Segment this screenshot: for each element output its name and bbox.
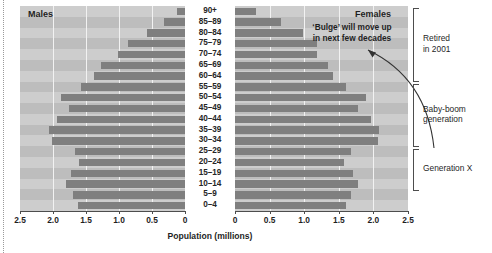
age-group-label: 50–54 (186, 92, 234, 103)
bar (69, 105, 185, 112)
bulge-annotation-line2: in next few decades (296, 33, 408, 44)
bar (61, 94, 185, 101)
bar (177, 8, 185, 15)
age-group-label: 75–79 (186, 38, 234, 49)
bar (235, 126, 379, 133)
axis-tick (20, 211, 21, 214)
bar (235, 29, 303, 36)
x-tick-label-right: 1.5 (324, 215, 354, 225)
age-group-label: 45–49 (186, 103, 234, 114)
gridline (53, 6, 54, 211)
age-group-label: 80–84 (186, 28, 234, 39)
bar (52, 137, 185, 144)
bar (81, 83, 185, 90)
axis-tick (53, 211, 54, 214)
age-group-label: 20–24 (186, 157, 234, 168)
cohort-bracket-label: Baby-boomgeneration (423, 104, 491, 125)
age-group-label: 10–14 (186, 179, 234, 190)
bar (75, 148, 185, 155)
age-group-axis: 90+85–8980–8475–7970–7465–6960–6455–5950… (186, 6, 234, 211)
axis-tick (270, 211, 271, 214)
x-tick-label-left: 1.5 (71, 215, 101, 225)
axis-tick (86, 211, 87, 214)
bar (71, 170, 185, 177)
males-panel-title: Males (28, 9, 53, 19)
bar (118, 51, 185, 58)
bar (235, 8, 256, 15)
bar (235, 159, 344, 166)
axis-tick (373, 211, 374, 214)
axis-tick (235, 211, 236, 214)
age-group-label: 55–59 (186, 82, 234, 93)
x-tick-label-left: 2.0 (38, 215, 68, 225)
bar (235, 72, 333, 79)
age-group-label: 30–34 (186, 135, 234, 146)
bar (235, 105, 358, 112)
cohort-bracket (413, 149, 419, 191)
cohort-bracket (413, 8, 419, 82)
bar (235, 51, 317, 58)
females-axis-line (235, 211, 409, 212)
cohort-bracket-label: Retiredin 2001 (423, 33, 491, 54)
x-tick-label-left: 0.5 (137, 215, 167, 225)
cohort-bracket-label-line2: generation (423, 114, 491, 125)
cohort-bracket-label: Generation X (423, 163, 491, 174)
age-group-label: 65–69 (186, 60, 234, 71)
bar (235, 170, 353, 177)
bar (235, 83, 346, 90)
x-tick-label-right: 2.0 (358, 215, 388, 225)
bulge-annotation-line1: ‘Bulge’ will move up (296, 22, 408, 33)
bar (235, 94, 366, 101)
bar (235, 18, 281, 25)
bar (235, 180, 358, 187)
x-tick-label-left: 2.5 (5, 215, 35, 225)
bulge-annotation: ‘Bulge’ will move up in next few decades (296, 22, 408, 44)
age-group-label: 15–19 (186, 168, 234, 179)
bar (235, 191, 351, 198)
females-panel-title: Females (355, 9, 391, 19)
males-axis-line (20, 211, 186, 212)
x-axis-title: Population (millions) (0, 231, 420, 241)
bar (235, 137, 378, 144)
axis-tick (119, 211, 120, 214)
bar (128, 40, 185, 47)
cohort-bracket-label-line2: in 2001 (423, 44, 491, 55)
bar (101, 62, 185, 69)
cohort-bracket-label-line1: Baby-boom (423, 104, 491, 115)
age-group-label: 40–44 (186, 114, 234, 125)
axis-tick (185, 211, 186, 214)
bar (235, 202, 346, 209)
age-group-label: 60–64 (186, 71, 234, 82)
bar (73, 191, 185, 198)
age-group-label: 90+ (186, 6, 234, 17)
axis-tick (152, 211, 153, 214)
bar (147, 29, 185, 36)
bar (235, 62, 328, 69)
cohort-bracket-label-line1: Retired (423, 33, 491, 44)
x-tick-label-right: 2.5 (393, 215, 423, 225)
x-tick-label-right: 0.5 (255, 215, 285, 225)
x-tick-label-right: 1.0 (289, 215, 319, 225)
bar (164, 18, 185, 25)
bar (57, 116, 185, 123)
bar (79, 159, 185, 166)
age-group-label: 70–74 (186, 49, 234, 60)
bar (66, 180, 185, 187)
x-tick-label-right: 0 (220, 215, 250, 225)
axis-tick (304, 211, 305, 214)
x-tick-label-left: 1.0 (104, 215, 134, 225)
population-pyramid-chart: 90+85–8980–8475–7970–7465–6960–6455–5950… (0, 0, 492, 253)
age-group-label: 25–29 (186, 146, 234, 157)
age-group-label: 85–89 (186, 17, 234, 28)
bar (49, 126, 185, 133)
males-plot-panel (20, 6, 185, 211)
axis-tick (408, 211, 409, 214)
axis-tick (339, 211, 340, 214)
bar (235, 148, 351, 155)
bar (78, 202, 185, 209)
bar (235, 116, 371, 123)
cohort-bracket-label-line1: Generation X (423, 163, 491, 174)
cohort-bracket (413, 84, 419, 147)
age-group-label: 5–9 (186, 189, 234, 200)
x-tick-label-left: 0 (170, 215, 200, 225)
